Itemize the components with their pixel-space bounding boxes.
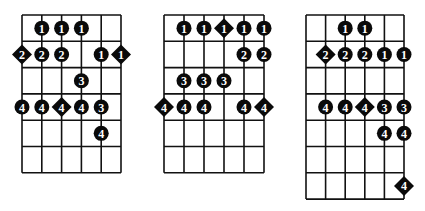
finger-number: 4 bbox=[78, 101, 84, 115]
note-marker: 2 bbox=[54, 47, 69, 62]
finger-number: 1 bbox=[362, 22, 368, 36]
finger-number: 3 bbox=[181, 74, 187, 88]
root-note-marker: 1 bbox=[214, 18, 234, 38]
finger-number: 1 bbox=[59, 22, 65, 36]
note-marker: 1 bbox=[34, 21, 49, 36]
note-marker: 1 bbox=[54, 21, 69, 36]
finger-number: 1 bbox=[342, 22, 348, 36]
finger-number: 4 bbox=[241, 101, 247, 115]
finger-number: 2 bbox=[261, 48, 267, 62]
note-marker: 1 bbox=[197, 21, 212, 36]
finger-number: 4 bbox=[381, 127, 387, 141]
note-marker: 3 bbox=[217, 73, 232, 88]
finger-number: 4 bbox=[401, 179, 407, 193]
root-note-marker: 1 bbox=[111, 44, 131, 64]
finger-number: 3 bbox=[221, 74, 227, 88]
finger-number: 2 bbox=[19, 48, 25, 62]
note-marker: 1 bbox=[377, 47, 392, 62]
note-marker: 1 bbox=[257, 21, 272, 36]
finger-number: 1 bbox=[201, 22, 207, 36]
note-marker: 2 bbox=[34, 47, 49, 62]
root-note-marker: 4 bbox=[254, 97, 274, 117]
scale-pattern-2: 111112233344444 bbox=[154, 15, 274, 173]
finger-number: 3 bbox=[201, 74, 207, 88]
fretboard-diagrams: 1112221134444341111122333444441122211444… bbox=[0, 0, 425, 211]
finger-number: 3 bbox=[401, 101, 407, 115]
note-marker: 3 bbox=[94, 100, 109, 115]
finger-number: 1 bbox=[381, 48, 387, 62]
finger-number: 2 bbox=[39, 48, 45, 62]
finger-number: 1 bbox=[78, 22, 84, 36]
note-marker: 3 bbox=[197, 73, 212, 88]
finger-number: 4 bbox=[98, 127, 104, 141]
note-marker: 2 bbox=[338, 47, 353, 62]
finger-number: 2 bbox=[241, 48, 247, 62]
note-marker: 2 bbox=[257, 47, 272, 62]
finger-number: 1 bbox=[221, 22, 227, 36]
scale-pattern-1: 111222113444434 bbox=[12, 15, 131, 173]
note-marker: 4 bbox=[338, 100, 353, 115]
finger-number: 1 bbox=[98, 48, 104, 62]
note-marker: 4 bbox=[34, 100, 49, 115]
note-marker: 1 bbox=[177, 21, 192, 36]
finger-number: 2 bbox=[59, 48, 65, 62]
finger-number: 2 bbox=[323, 48, 329, 62]
finger-number: 1 bbox=[261, 22, 267, 36]
root-note-marker: 2 bbox=[316, 44, 336, 64]
finger-number: 3 bbox=[98, 101, 104, 115]
note-marker: 4 bbox=[237, 100, 252, 115]
finger-number: 4 bbox=[39, 101, 45, 115]
note-marker: 4 bbox=[397, 126, 412, 141]
finger-number: 3 bbox=[381, 101, 387, 115]
note-marker: 3 bbox=[177, 73, 192, 88]
finger-number: 4 bbox=[401, 127, 407, 141]
finger-number: 1 bbox=[401, 48, 407, 62]
note-marker: 1 bbox=[74, 21, 89, 36]
note-marker: 1 bbox=[338, 21, 353, 36]
note-marker: 2 bbox=[357, 47, 372, 62]
note-marker: 4 bbox=[74, 100, 89, 115]
finger-number: 4 bbox=[19, 101, 25, 115]
finger-number: 4 bbox=[362, 101, 368, 115]
note-marker: 2 bbox=[237, 47, 252, 62]
finger-number: 3 bbox=[78, 74, 84, 88]
note-marker: 3 bbox=[397, 100, 412, 115]
finger-number: 2 bbox=[342, 48, 348, 62]
note-marker: 1 bbox=[397, 47, 412, 62]
finger-number: 4 bbox=[342, 101, 348, 115]
finger-number: 4 bbox=[323, 101, 329, 115]
fret-grid bbox=[22, 15, 121, 173]
finger-number: 1 bbox=[118, 48, 124, 62]
note-marker: 1 bbox=[237, 21, 252, 36]
finger-number: 1 bbox=[181, 22, 187, 36]
finger-number: 1 bbox=[39, 22, 45, 36]
finger-number: 4 bbox=[261, 101, 267, 115]
finger-number: 1 bbox=[241, 22, 247, 36]
fret-grid bbox=[164, 15, 264, 173]
root-note-marker: 4 bbox=[52, 97, 72, 117]
note-marker: 3 bbox=[377, 100, 392, 115]
note-marker: 1 bbox=[357, 21, 372, 36]
scale-pattern-3: 112221144433444 bbox=[306, 15, 414, 199]
root-note-marker: 4 bbox=[355, 97, 375, 117]
note-marker: 4 bbox=[197, 100, 212, 115]
finger-number: 4 bbox=[161, 101, 167, 115]
note-marker: 4 bbox=[318, 100, 333, 115]
root-note-marker: 2 bbox=[12, 44, 32, 64]
root-note-marker: 4 bbox=[154, 97, 174, 117]
note-marker: 4 bbox=[377, 126, 392, 141]
note-marker: 1 bbox=[94, 47, 109, 62]
finger-number: 4 bbox=[181, 101, 187, 115]
note-marker: 3 bbox=[74, 73, 89, 88]
finger-number: 4 bbox=[201, 101, 207, 115]
note-marker: 4 bbox=[177, 100, 192, 115]
root-note-marker: 4 bbox=[394, 176, 414, 196]
finger-number: 4 bbox=[59, 101, 65, 115]
finger-number: 2 bbox=[362, 48, 368, 62]
note-marker: 4 bbox=[94, 126, 109, 141]
note-marker: 4 bbox=[15, 100, 30, 115]
